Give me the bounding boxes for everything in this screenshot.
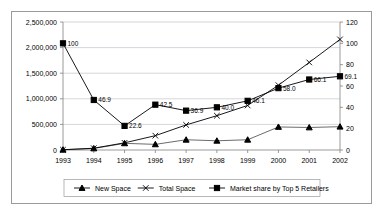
x-axis-tick-label: 1999 [240, 157, 256, 164]
data-point-square [153, 102, 158, 107]
data-label: 22.6 [129, 122, 142, 129]
y2-axis-tick-label: 120 [346, 19, 358, 26]
y-axis-tick-label: 0 [53, 147, 57, 154]
legend-label: Total Space [159, 185, 196, 193]
y-axis-tick-label: 1,000,000 [26, 95, 57, 102]
y-axis-tick-label: 2,000,000 [26, 44, 57, 51]
y-axis-tick-label: 2,500,000 [26, 19, 57, 26]
x-axis-tick-label: 1997 [178, 157, 194, 164]
data-label: 100 [68, 40, 79, 47]
data-label: 58.0 [283, 85, 296, 92]
data-label: 46.9 [98, 96, 111, 103]
y2-axis-tick-label: 0 [346, 147, 350, 154]
y2-axis-tick-label: 80 [346, 61, 354, 68]
data-point-square [122, 123, 127, 128]
data-label: 69.1 [345, 73, 358, 80]
y-axis-tick-label: 1,500,000 [26, 70, 57, 77]
x-axis-tick-label: 1995 [117, 157, 133, 164]
x-axis-tick-label: 1994 [86, 157, 102, 164]
x-axis-tick-label: 2002 [332, 157, 348, 164]
x-axis-tick-label: 1993 [55, 157, 71, 164]
chart-figure: 0500,0001,000,0001,500,0002,000,0002,500… [0, 0, 385, 215]
data-point-square [184, 108, 189, 113]
x-axis-tick-label: 1998 [209, 157, 225, 164]
data-label: 66.1 [314, 76, 327, 83]
y2-axis-tick-label: 20 [346, 125, 354, 132]
y2-axis-tick-label: 60 [346, 83, 354, 90]
data-label: 40.0 [221, 104, 234, 111]
x-axis-tick-label: 1996 [148, 157, 164, 164]
legend-marker-square [214, 185, 219, 190]
data-label: 46.1 [252, 97, 265, 104]
y2-axis-tick-label: 100 [346, 40, 358, 47]
x-axis-tick-label: 2000 [271, 157, 287, 164]
data-point-square [307, 77, 312, 82]
y2-axis-tick-label: 40 [346, 104, 354, 111]
data-label: 42.5 [160, 101, 173, 108]
data-point-square [245, 98, 250, 103]
data-point-square [337, 74, 342, 79]
legend-label: New Space [95, 185, 131, 193]
data-point-square [214, 105, 219, 110]
series-total-space [60, 37, 343, 153]
data-point-square [276, 86, 281, 91]
x-axis-tick-label: 2001 [301, 157, 317, 164]
data-point-square [91, 97, 96, 102]
series-new-space [60, 124, 343, 152]
y-axis-tick-label: 500,000 [32, 121, 57, 128]
series-market-share-by-top-5-retailers: 10046.922.642.536.940.046.158.066.169.1 [60, 40, 357, 130]
legend-label: Market share by Top 5 Retailers [230, 185, 329, 193]
chart-canvas: 0500,0001,000,0001,500,0002,000,0002,500… [0, 0, 385, 215]
data-label: 36.9 [191, 107, 204, 114]
series-line [63, 39, 340, 149]
data-point-square [60, 41, 65, 46]
